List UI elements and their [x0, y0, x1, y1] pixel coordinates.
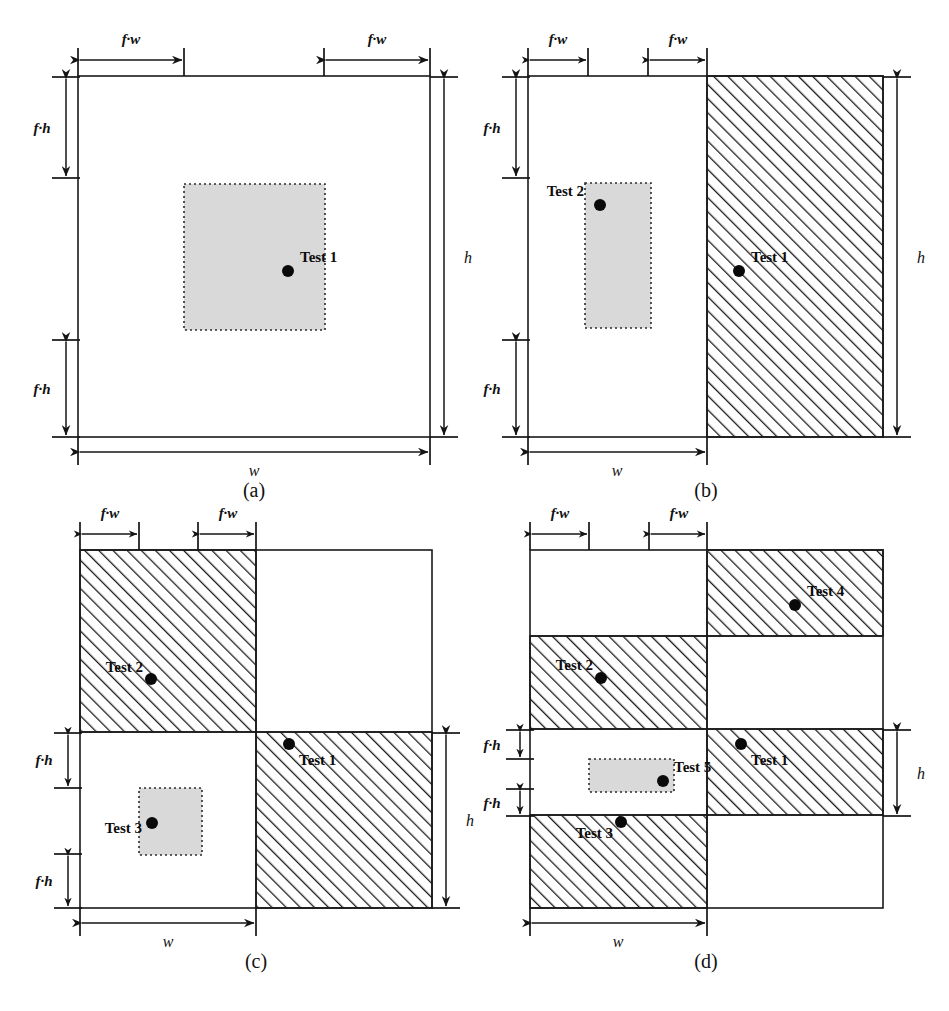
panel-a-dim-fh-top: f·h — [33, 77, 80, 178]
label-fw: f·w — [368, 31, 388, 47]
panel-b-test2-dot — [594, 199, 606, 211]
panel-d-test3-dot — [615, 816, 627, 828]
panel-d-dim-fw-right: f·w — [649, 505, 707, 550]
panel-b-dim-fw-left: f·w — [528, 31, 588, 76]
panel-d: f·w f·w Test 4 Test 2 Test 1 — [483, 505, 925, 973]
panel-b-caption: (b) — [694, 479, 717, 502]
label-h: h — [464, 249, 472, 266]
panel-d-dim-fh-top: f·h — [483, 730, 534, 759]
panel-d-test3-label: Test 3 — [576, 825, 613, 841]
panel-c-caption: (c) — [245, 950, 267, 973]
panel-a-test1-dot — [282, 265, 294, 277]
panel-a-caption: (a) — [243, 479, 265, 502]
panel-c: f·w f·w Test 2 Test 1 Test 3 f·h — [35, 505, 474, 973]
panel-b: f·w f·w f·h f·h Test 2 — [483, 31, 925, 502]
label-fw: f·w — [101, 505, 121, 521]
label-h: h — [917, 765, 925, 782]
panel-b-dim-fh-bottom: f·h — [483, 340, 530, 437]
label-fw: f·w — [549, 31, 569, 47]
panel-c-dim-w: w — [80, 908, 256, 950]
label-fh: f·h — [483, 795, 500, 811]
panel-d-dim-h: h — [883, 730, 925, 816]
panel-c-dim-fh-top: f·h — [35, 733, 82, 788]
label-w: w — [613, 933, 624, 950]
panel-b-dim-w: w — [528, 437, 707, 479]
figure-root: f·w f·w f·h f·h Test 1 — [0, 0, 949, 1011]
label-w: w — [612, 462, 623, 479]
label-fh: f·h — [33, 120, 50, 136]
panel-c-hatched-bottom-right — [256, 732, 432, 908]
panel-a-dim-h: h — [430, 77, 472, 437]
panel-d-test1-label: Test 1 — [751, 752, 788, 768]
panel-b-test1-label: Test 1 — [751, 249, 788, 265]
panel-c-dim-fw-right: f·w — [198, 505, 256, 550]
panel-d-test5-dot — [657, 775, 669, 787]
panel-a-dim-w: w — [78, 437, 430, 479]
panel-d-test1-dot — [735, 738, 747, 750]
panel-c-dim-fw-left: f·w — [80, 505, 139, 550]
panel-d-dim-w: w — [530, 908, 707, 950]
panel-c-test2-dot — [145, 673, 157, 685]
label-fw: f·w — [219, 505, 239, 521]
panel-d-test5-label: Test 5 — [674, 759, 711, 775]
label-fw: f·w — [122, 31, 142, 47]
panel-a-dim-fh-bottom: f·h — [33, 340, 80, 437]
panel-c-test2-label: Test 2 — [106, 659, 143, 675]
panel-d-hatched-band4-left — [530, 815, 707, 908]
panel-c-hatched-top-left — [80, 550, 256, 732]
label-fh: f·h — [35, 752, 52, 768]
label-fw: f·w — [670, 505, 690, 521]
panel-d-test2-label: Test 2 — [556, 657, 593, 673]
panel-c-test3-dot — [146, 817, 158, 829]
panel-d-test4-dot — [789, 599, 801, 611]
panel-a-dim-fw-left: f·w — [78, 31, 184, 76]
label-w: w — [249, 462, 260, 479]
panel-d-dim-fh-bottom: f·h — [483, 789, 534, 816]
panel-a: f·w f·w f·h f·h Test 1 — [33, 31, 472, 502]
panel-c-dim-h: h — [432, 733, 474, 908]
label-fh: f·h — [35, 873, 52, 889]
panel-b-test2-label: Test 2 — [547, 183, 584, 199]
panel-d-test2-dot — [595, 672, 607, 684]
panel-a-dim-fw-right: f·w — [324, 31, 430, 76]
label-h: h — [917, 249, 925, 266]
panel-c-test1-label: Test 1 — [299, 752, 336, 768]
panel-d-test4-label: Test 4 — [807, 583, 845, 599]
label-h: h — [466, 812, 474, 829]
panel-c-test1-dot — [283, 738, 295, 750]
panel-c-test3-label: Test 3 — [105, 820, 142, 836]
panel-d-hatched-band3-right — [707, 729, 883, 815]
panel-b-dim-h: h — [883, 77, 925, 437]
label-fw: f·w — [551, 505, 571, 521]
label-fw: f·w — [669, 31, 689, 47]
panel-b-dim-fw-right: f·w — [648, 31, 707, 76]
panel-d-hatched-band2-left — [530, 636, 707, 729]
panel-b-hatched-right-column — [707, 76, 883, 437]
label-fh: f·h — [483, 737, 500, 753]
panel-d-hatched-band1-right — [707, 550, 883, 636]
label-fh: f·h — [483, 120, 500, 136]
panel-d-dim-fw-left: f·w — [530, 505, 589, 550]
label-fh: f·h — [33, 381, 50, 397]
panel-a-test1-label: Test 1 — [300, 249, 337, 265]
panel-c-dim-fh-bottom: f·h — [35, 854, 82, 908]
panel-b-dim-fh-top: f·h — [483, 77, 530, 178]
panel-b-test1-dot — [733, 265, 745, 277]
label-fh: f·h — [483, 381, 500, 397]
panel-d-caption: (d) — [694, 950, 717, 973]
label-w: w — [163, 933, 174, 950]
